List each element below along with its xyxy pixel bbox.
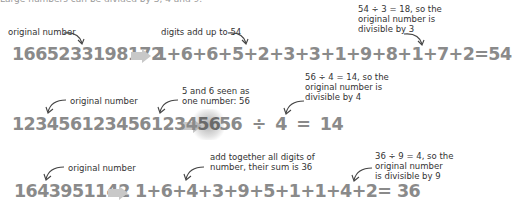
- right-arrow-icon: [131, 49, 151, 63]
- original-number-label: original number: [68, 163, 136, 173]
- curved-arrow-icon: [158, 99, 180, 115]
- expression: 1+6+6+5+2+3+3+1+9+8+1+7+2: [155, 44, 474, 64]
- result-note: 36 ÷ 9 = 4, so the original number is di…: [375, 151, 453, 181]
- curved-arrow-icon: [404, 31, 426, 47]
- equals-sign: =: [377, 181, 391, 201]
- number-digits: 1234561234561234: [12, 114, 197, 134]
- curved-arrow-icon: [284, 100, 306, 116]
- expression: 56 ÷ 4: [219, 114, 287, 134]
- result-note: 54 ÷ 3 = 18, so the original number is d…: [358, 4, 442, 34]
- curved-arrow-icon: [184, 166, 206, 182]
- expression: 1+6+4+3+9+5+1+1+4+2: [135, 181, 377, 201]
- middle-note: add together all digits of number, their…: [210, 152, 315, 172]
- original-number: 123456123456123456: [12, 114, 220, 134]
- middle-note: 5 and 6 seen as one number: 56: [182, 86, 250, 106]
- original-number-label: original number: [70, 96, 138, 106]
- result-note: 56 ÷ 4 = 14, so the original number is d…: [305, 72, 389, 102]
- equals-sign: =: [474, 44, 488, 64]
- curved-arrow-icon: [46, 99, 68, 115]
- result: 54: [488, 44, 511, 64]
- division-expression: 56 ÷ 4 = 14: [219, 114, 343, 134]
- sum-expression: 1+6+4+3+9+5+1+1+4+2= 36: [135, 181, 420, 201]
- curved-arrow-icon: [44, 166, 66, 182]
- intro-text: Large numbers can be divided by 3, 4 and…: [0, 0, 202, 4]
- equals-sign: =: [296, 114, 310, 134]
- curved-arrow-icon: [352, 167, 374, 183]
- result: 14: [320, 114, 343, 134]
- highlighted-digits: 56: [197, 114, 220, 134]
- right-arrow-icon: [108, 186, 128, 200]
- sum-expression: 1+6+6+5+2+3+3+1+9+8+1+7+2=54: [155, 44, 512, 64]
- result: 36: [397, 181, 420, 201]
